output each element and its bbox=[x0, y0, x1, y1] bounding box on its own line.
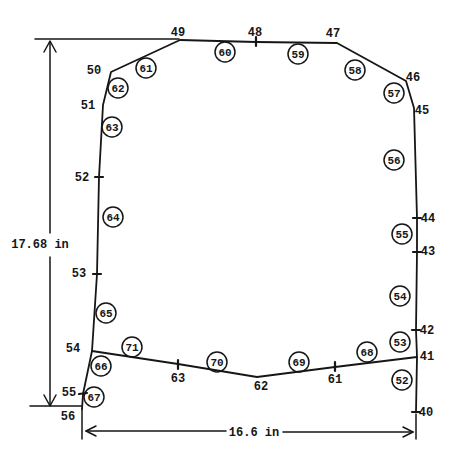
element-marker-64: 64 bbox=[103, 207, 123, 227]
element-marker-70: 70 bbox=[207, 352, 227, 372]
node-label-50: 50 bbox=[87, 64, 101, 78]
element-marker-67: 67 bbox=[84, 387, 104, 407]
element-label-55: 55 bbox=[395, 229, 409, 241]
node-label-41: 41 bbox=[420, 350, 434, 364]
node-label-40: 40 bbox=[419, 406, 433, 420]
element-label-63: 63 bbox=[105, 122, 119, 134]
contour-diagram: 17.68 in 16.6 in 49 48 47 46 45 44 43 42… bbox=[0, 0, 454, 463]
node-label-55: 55 bbox=[62, 386, 76, 400]
element-marker-53: 53 bbox=[390, 332, 410, 352]
element-label-68: 68 bbox=[360, 347, 374, 359]
element-marker-65: 65 bbox=[96, 303, 116, 323]
element-marker-66: 66 bbox=[91, 356, 111, 376]
node-label-49: 49 bbox=[171, 26, 185, 40]
element-label-60: 60 bbox=[218, 47, 231, 59]
element-label-69: 69 bbox=[292, 357, 305, 369]
element-label-66: 66 bbox=[94, 361, 107, 373]
node-label-45: 45 bbox=[415, 104, 429, 118]
node-label-42: 42 bbox=[420, 324, 434, 338]
node-label-47: 47 bbox=[326, 27, 340, 41]
node-label-46: 46 bbox=[406, 71, 420, 85]
element-label-57: 57 bbox=[387, 88, 400, 100]
node-tick-55 bbox=[79, 393, 87, 394]
element-label-61: 61 bbox=[139, 63, 153, 75]
element-label-54: 54 bbox=[393, 291, 407, 303]
node-label-48: 48 bbox=[248, 26, 262, 40]
element-label-62: 62 bbox=[111, 83, 124, 95]
element-label-52: 52 bbox=[395, 375, 408, 387]
node-label-43: 43 bbox=[421, 245, 435, 259]
element-label-53: 53 bbox=[393, 337, 407, 349]
node-label-52: 52 bbox=[75, 171, 89, 185]
vertical-dimension-label: 17.68 in bbox=[11, 238, 69, 252]
element-marker-52: 52 bbox=[392, 370, 412, 390]
node-label-44: 44 bbox=[421, 212, 435, 226]
element-label-71: 71 bbox=[125, 342, 139, 354]
node-label-63: 63 bbox=[171, 372, 185, 386]
element-label-56: 56 bbox=[387, 155, 400, 167]
element-marker-57: 57 bbox=[384, 83, 404, 103]
node-label-53: 53 bbox=[72, 267, 86, 281]
node-label-62: 62 bbox=[254, 380, 268, 394]
element-label-59: 59 bbox=[291, 49, 304, 61]
element-marker-55: 55 bbox=[392, 224, 412, 244]
element-marker-63: 63 bbox=[102, 117, 122, 137]
element-label-58: 58 bbox=[348, 65, 362, 77]
element-label-70: 70 bbox=[210, 357, 223, 369]
element-marker-69: 69 bbox=[289, 352, 309, 372]
node-label-54: 54 bbox=[66, 342, 80, 356]
node-label-51: 51 bbox=[81, 99, 95, 113]
horizontal-dimension-label: 16.6 in bbox=[229, 426, 279, 440]
element-marker-54: 54 bbox=[390, 286, 410, 306]
node-label-61: 61 bbox=[328, 373, 342, 387]
diagram-canvas: 17.68 in 16.6 in 49 48 47 46 45 44 43 42… bbox=[0, 0, 454, 463]
element-label-64: 64 bbox=[106, 212, 120, 224]
element-marker-61: 61 bbox=[136, 58, 156, 78]
element-marker-59: 59 bbox=[288, 44, 308, 64]
element-marker-68: 68 bbox=[357, 342, 377, 362]
element-marker-62: 62 bbox=[108, 78, 128, 98]
element-marker-60: 60 bbox=[215, 42, 235, 62]
element-marker-56: 56 bbox=[384, 150, 404, 170]
element-label-67: 67 bbox=[87, 392, 100, 404]
element-marker-58: 58 bbox=[345, 60, 365, 80]
element-marker-71: 71 bbox=[122, 337, 142, 357]
element-label-65: 65 bbox=[99, 308, 113, 320]
node-label-56: 56 bbox=[61, 410, 75, 424]
